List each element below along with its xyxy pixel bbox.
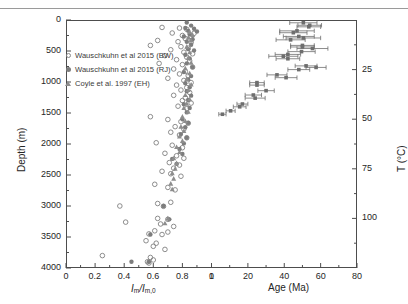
legend-label-bw: Wauschkuhn et al 2015 (BW) [74, 51, 173, 60]
data-point-open-circle [176, 39, 181, 44]
tick-label: 4000 [41, 262, 61, 272]
data-point-filled-triangle [180, 114, 185, 119]
data-point-filled-circle [185, 40, 189, 44]
data-point-open-circle [177, 26, 182, 31]
data-point-open-circle [123, 220, 128, 225]
data-point-open-circle [182, 156, 187, 161]
data-point-filled-triangle [180, 138, 185, 143]
data-point-open-circle [179, 44, 184, 49]
tick-label: 75 [362, 163, 372, 173]
data-point-open-circle [155, 38, 160, 43]
errorbar-point [250, 83, 265, 87]
tick-label: 0 [209, 271, 214, 281]
tick-label: 25 [362, 64, 372, 74]
data-point-filled-circle [161, 204, 165, 208]
data-point-filled-circle [185, 136, 189, 140]
tick-label: 40 [279, 271, 289, 281]
axis-label-track-length-ratio: Im/Im,0 [131, 283, 156, 294]
data-point-open-circle [160, 169, 165, 174]
data-point-open-circle [166, 117, 171, 122]
data-point-open-circle [118, 204, 123, 209]
data-point-filled-triangle [178, 124, 183, 129]
data-point-open-circle [160, 232, 165, 237]
errorbar-point [258, 88, 274, 92]
data-point-open-circle [152, 182, 157, 187]
axis-label-depth: Depth (m) [16, 128, 27, 172]
data-point-filled-circle [192, 48, 196, 52]
data-point-open-circle [151, 258, 156, 263]
data-point-open-circle [179, 174, 184, 179]
errorbar-point [245, 96, 265, 100]
data-point-open-circle [158, 222, 163, 227]
data-point-open-circle [167, 160, 172, 165]
axis-label-temperature: T (°C) [396, 145, 407, 172]
data-point-open-circle [173, 124, 178, 129]
errorbar-point [267, 73, 287, 77]
data-point-filled-circle [182, 34, 186, 38]
tick-label: 50 [362, 113, 372, 123]
tick-label: 0.8 [176, 271, 189, 281]
tick-label: 60 [316, 271, 326, 281]
data-point-filled-circle [190, 65, 194, 69]
tick-label: 3000 [41, 200, 61, 210]
figure-canvas: Depth (m) T (°C) Im/Im,0 Age (Ma) Wausch… [0, 0, 408, 304]
errorbar-point [245, 93, 261, 97]
data-point-open-circle [100, 253, 105, 258]
tick-label: 2500 [41, 169, 61, 179]
data-point-open-circle [154, 140, 159, 145]
tick-label: 80 [352, 271, 362, 281]
data-point-open-circle [170, 31, 175, 36]
data-point-open-circle [155, 201, 160, 206]
tick-label: 0.2 [89, 271, 102, 281]
filled-circle-icon [62, 67, 74, 72]
data-point-filled-triangle [173, 166, 178, 171]
data-point-filled-triangle [171, 176, 176, 181]
data-point-open-circle [151, 244, 156, 249]
plot-graphics [0, 0, 408, 304]
tick-label: 20 [243, 271, 253, 281]
data-point-open-circle [180, 62, 185, 67]
data-point-open-circle [163, 247, 168, 252]
errorbar-point [219, 112, 226, 116]
tick-label: 0 [64, 271, 69, 281]
legend-label-rj: Wauschkuhn et al 2015 (RJ) [74, 65, 171, 74]
tick-label: 0 [56, 14, 61, 24]
tick-label: 2000 [41, 138, 61, 148]
data-point-open-circle [174, 153, 179, 158]
data-point-open-circle [148, 255, 153, 260]
axis-label-age: Age (Ma) [268, 282, 309, 293]
tick-label: 0.4 [118, 271, 131, 281]
legend: Wauschkuhn et al 2015 (BW) Wauschkuhn et… [62, 48, 173, 90]
data-point-filled-circle [189, 43, 193, 47]
data-point-open-circle [168, 130, 173, 135]
data-point-open-circle [155, 216, 160, 221]
tick-label: 100 [362, 212, 377, 222]
data-point-filled-circle [147, 260, 151, 264]
data-point-filled-circle [129, 260, 133, 264]
data-point-open-circle [174, 83, 179, 88]
data-point-open-circle [170, 143, 175, 148]
data-point-filled-circle [182, 70, 186, 74]
data-point-open-circle [171, 224, 176, 229]
data-point-open-circle [148, 114, 153, 119]
tick-label: 1500 [41, 107, 61, 117]
data-point-open-circle [177, 72, 182, 77]
tick-label: 3500 [41, 231, 61, 241]
data-point-open-circle [179, 88, 184, 93]
data-point-open-circle [166, 185, 171, 190]
data-point-open-circle [174, 57, 179, 62]
legend-item-eh: Coyle et al. 1997 (EH) [62, 76, 173, 90]
tick-label: 500 [46, 45, 61, 55]
data-point-filled-circle [183, 53, 187, 57]
data-point-filled-circle [185, 20, 189, 24]
errorbar-point [276, 57, 300, 61]
data-point-filled-circle [183, 81, 187, 85]
data-point-filled-circle [195, 29, 199, 33]
data-point-open-circle [160, 25, 165, 30]
errorbar-point [226, 109, 235, 113]
legend-label-eh: Coyle et al. 1997 (EH) [74, 79, 150, 88]
data-point-filled-triangle [189, 60, 194, 65]
data-point-open-circle [166, 230, 171, 235]
data-point-filled-circle [148, 232, 152, 236]
data-point-open-circle [171, 93, 176, 98]
